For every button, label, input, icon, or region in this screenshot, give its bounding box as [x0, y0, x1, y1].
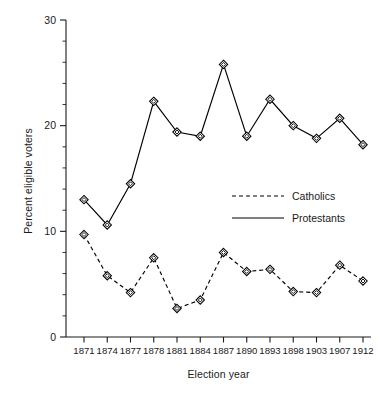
y-axis: 0102030: [44, 14, 66, 343]
x-tick-label: 1881: [166, 345, 187, 356]
series-protestants: [80, 60, 367, 229]
chart-container: 0102030 18711874187718781881188418871890…: [0, 0, 382, 398]
x-tick-label: 1884: [190, 345, 212, 356]
legend-label: Protestants: [292, 212, 345, 224]
y-tick-label: 0: [50, 331, 56, 343]
line-chart-plot: 0102030 18711874187718781881188418871890…: [0, 0, 382, 398]
y-tick-label: 30: [44, 14, 56, 26]
data-series-group: [80, 60, 367, 312]
legend-label: Catholics: [292, 190, 335, 202]
x-tick-label: 1871: [73, 345, 94, 356]
legend-item-catholics: Catholics: [232, 190, 335, 202]
series-catholics: [80, 230, 367, 312]
x-tick-label: 1890: [236, 345, 257, 356]
x-axis: 1871187418771878188118841887189018931898…: [66, 337, 374, 356]
chart-legend: CatholicsProtestants: [232, 190, 345, 224]
x-axis-title: Election year: [66, 368, 371, 380]
x-tick-label: 1907: [329, 345, 350, 356]
legend-item-protestants: Protestants: [232, 212, 345, 224]
x-tick-label: 1874: [97, 345, 119, 356]
x-tick-label: 1898: [283, 345, 304, 356]
y-tick-label: 10: [44, 225, 56, 237]
x-tick-label: 1893: [259, 345, 280, 356]
x-tick-label: 1887: [213, 345, 234, 356]
x-tick-label: 1912: [352, 345, 373, 356]
x-tick-label: 1903: [306, 345, 327, 356]
x-tick-label: 1877: [120, 345, 141, 356]
x-tick-label: 1878: [143, 345, 164, 356]
y-axis-title: Percent eligible voters: [22, 91, 34, 271]
y-tick-label: 20: [44, 119, 56, 131]
